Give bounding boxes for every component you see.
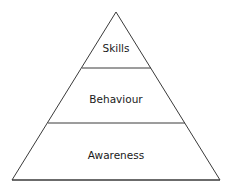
level-label-behaviour: Behaviour bbox=[89, 93, 143, 105]
pyramid-diagram: Skills Behaviour Awareness bbox=[0, 0, 231, 190]
level-label-skills: Skills bbox=[103, 42, 130, 54]
level-label-awareness: Awareness bbox=[88, 149, 144, 161]
